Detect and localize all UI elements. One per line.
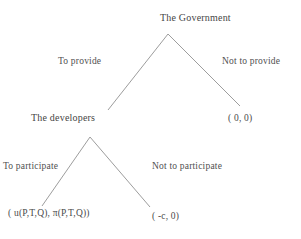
edge-label-to-participate: To participate — [3, 161, 58, 171]
edge-label-not-to-participate: Not to participate — [152, 161, 222, 171]
edge-line-not-to-provide — [168, 34, 240, 106]
edge-label-to-provide: To provide — [58, 56, 101, 66]
payoff-not-to-provide: ( 0, 0) — [228, 113, 252, 123]
edge-line-to-provide — [108, 34, 168, 110]
edge-line-to-participate — [42, 137, 90, 206]
game-tree-diagram: The Government The developers To provide… — [0, 0, 301, 239]
node-label-government: The Government — [160, 12, 231, 23]
node-label-developers: The developers — [31, 112, 95, 123]
payoff-to-participate: ( u(P,T,Q), π(P,T,Q)) — [8, 208, 90, 218]
payoff-not-to-participate: ( -c, 0) — [152, 211, 179, 221]
edge-label-not-to-provide: Not to provide — [222, 56, 280, 66]
edge-line-not-to-participate — [90, 137, 150, 207]
